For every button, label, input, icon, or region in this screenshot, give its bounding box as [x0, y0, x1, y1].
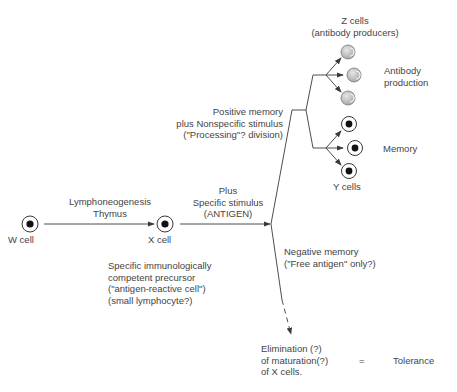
- arrow-to-z1: [326, 58, 341, 75]
- z-cells-subtitle: (antibody producers): [300, 27, 410, 39]
- elimination-label: Elimination (?) of maturation(?) of X ce…: [261, 343, 328, 378]
- z-cells-title: Z cells: [300, 15, 410, 27]
- w-cell-label: W cell: [8, 234, 34, 246]
- x-desc-line3: ("antigen-reactive cell"): [108, 283, 211, 295]
- memory-label: Memory: [383, 143, 417, 155]
- antibody-production-label: Antibody production: [384, 65, 428, 88]
- x-desc-line1: Specific immunologically: [108, 260, 211, 272]
- antibody-line2: production: [384, 77, 428, 89]
- lymphoneogenesis-label: Lymphoneogenesis Thymus: [60, 196, 160, 219]
- arrow-to-y1: [326, 131, 341, 148]
- tolerance-label: Tolerance: [393, 355, 434, 367]
- elimination-line1: Elimination (?): [261, 343, 328, 355]
- y-cell-icon: [348, 141, 363, 156]
- negative-line1: Negative memory: [284, 246, 376, 258]
- positive-memory-label: Positive memory plus Nonspecific stimulu…: [160, 106, 283, 141]
- z-cells-label: Z cells (antibody producers): [300, 15, 410, 38]
- arrow-to-z3: [326, 75, 341, 92]
- elimination-line2: of maturation(?): [261, 355, 328, 367]
- positive-line3: ("Processing"? division): [160, 129, 283, 141]
- edge-w-x-line2: Thymus: [60, 208, 160, 220]
- edge-x-branch-line2: Specific stimulus: [183, 197, 273, 209]
- x-cell-description: Specific immunologically competent precu…: [108, 260, 211, 306]
- y-cell-icon: [342, 117, 357, 132]
- specific-stimulus-label: Plus Specific stimulus (ANTIGEN): [183, 185, 273, 220]
- equals-sign: =: [359, 355, 365, 367]
- negative-branch-dashed: [282, 300, 291, 334]
- antibody-line1: Antibody: [384, 65, 428, 77]
- x-desc-line4: (small lymphocyte?): [108, 295, 211, 307]
- z-cell-icon: [341, 45, 355, 59]
- x-desc-line2: competent precursor: [108, 272, 211, 284]
- z-branch-line: [306, 75, 326, 110]
- edge-x-branch-line1: Plus: [183, 185, 273, 197]
- arrow-to-y3: [326, 148, 341, 165]
- positive-line1: Positive memory: [160, 106, 283, 118]
- positive-line2: plus Nonspecific stimulus: [160, 118, 283, 130]
- y-cells-label: Y cells: [333, 181, 361, 193]
- negative-memory-label: Negative memory ("Free antigen" only?): [284, 246, 376, 269]
- z-cell-icon: [341, 91, 355, 105]
- w-cell-icon: [22, 216, 38, 232]
- y-branch-line: [306, 110, 326, 148]
- elimination-line3: of X cells.: [261, 366, 328, 378]
- negative-branch-line: [271, 224, 282, 300]
- y-cell-icon: [342, 164, 357, 179]
- negative-line2: ("Free antigen" only?): [284, 258, 376, 270]
- x-cell-label: X cell: [148, 234, 171, 246]
- edge-w-x-line1: Lymphoneogenesis: [60, 196, 160, 208]
- z-cell-icon: [347, 68, 361, 82]
- edge-x-branch-line3: (ANTIGEN): [183, 208, 273, 220]
